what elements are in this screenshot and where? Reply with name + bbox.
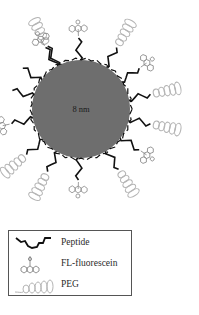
fluorescein-molecule xyxy=(69,182,88,199)
fluorescein-molecule xyxy=(136,143,159,167)
legend-label-peg: PEG xyxy=(61,279,79,289)
legend-item-peptide: Peptide xyxy=(9,233,131,255)
legend: Peptide FL-fluorescein P xyxy=(8,230,132,296)
nanoparticle-diagram: 8 nm xyxy=(0,0,199,215)
legend-label-fluorescein: FL-fluorescein xyxy=(61,258,117,268)
peptide-chain-icon xyxy=(13,234,57,254)
legend-item-fluorescein: FL-fluorescein xyxy=(9,254,131,276)
peg-coil xyxy=(115,18,138,47)
core-size-label: 8 nm xyxy=(72,104,90,114)
peg-coil xyxy=(153,120,183,136)
fluorescein-molecule-icon xyxy=(13,255,57,275)
legend-item-peg: PEG xyxy=(9,275,131,297)
peg-coil-icon xyxy=(13,276,57,296)
peptide-chain xyxy=(27,139,45,154)
peg-coil xyxy=(0,154,27,180)
fluorescein-molecule xyxy=(69,20,88,37)
peg-coil xyxy=(153,82,183,98)
peptide-chain xyxy=(120,68,140,82)
peptide-chain xyxy=(12,89,35,97)
peg-coil xyxy=(27,172,49,202)
peg-coil xyxy=(117,170,141,199)
peptide-chain xyxy=(76,156,82,180)
legend-label-peptide: Peptide xyxy=(61,237,90,247)
fluorescein-molecule xyxy=(0,115,11,136)
